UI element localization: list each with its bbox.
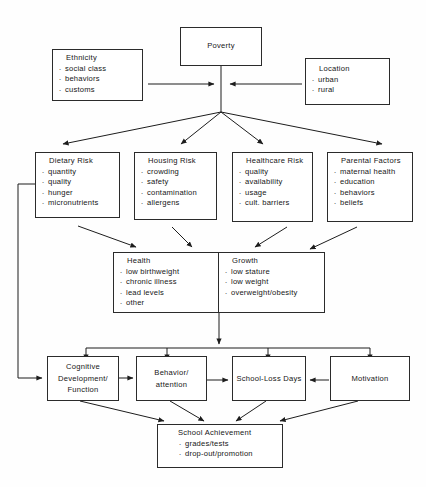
diagram-canvas: Poverty Ethnicity social class behaviors… [0,0,426,487]
list-item: quality [238,167,308,178]
list-item: other [119,298,214,309]
node-growth-items: low stature low weight overweight/obesit… [224,267,320,299]
node-health-growth[interactable]: Health low birthweight chronic illness l… [113,252,325,313]
list-item: beliefs [333,198,408,209]
list-item: overweight/obesity [224,288,320,299]
node-motivation[interactable]: Motivation [330,356,410,401]
node-school-achievement-title: School Achievement [178,428,278,439]
edge-hub-to-parental-factors [221,112,382,144]
node-health-items: low birthweight chronic illness lead lev… [119,267,214,309]
list-item: safety [140,177,212,188]
node-ethnicity-title: Ethnicity [58,53,138,64]
list-item: quality [41,177,115,188]
node-cognitive-development[interactable]: Cognitive Development/ Function [47,356,119,401]
node-parental-factors-items: maternal health education behaviors beli… [333,167,408,209]
list-item: education [333,177,408,188]
edge-hub-to-dietary-risk [63,112,221,144]
list-item: social class [58,64,138,75]
list-item: grades/tests [178,439,278,450]
list-item: availability [238,177,308,188]
list-item: urban [311,75,385,86]
edge-behavior-to-achievement [170,401,204,421]
node-health-title: Health [119,256,214,267]
list-item: maternal health [333,167,408,178]
node-school-achievement-items: grades/tests drop-out/promotion [178,439,278,460]
list-item: crowding [140,167,212,178]
list-item: lead levels [119,288,214,299]
list-item: customs [58,85,138,96]
node-parental-factors-title: Parental Factors [333,156,408,167]
node-healthcare-risk[interactable]: Healthcare Risk quality availability usa… [232,152,313,222]
node-growth[interactable]: Growth low stature low weight overweight… [219,253,324,312]
node-poverty-title: Poverty [207,41,235,52]
node-school-loss-days-title: School-Loss Days [234,373,303,385]
edge-parental-to-growth [310,227,357,249]
edge-motivation-to-achievement [280,401,358,421]
list-item: rural [311,85,385,96]
node-growth-title: Growth [224,256,320,267]
list-item: behaviors [58,74,138,85]
node-housing-risk[interactable]: Housing Risk crowding safety contaminati… [134,152,217,220]
node-dietary-risk[interactable]: Dietary Risk quantity quality hunger mic… [35,152,120,218]
list-item: micronutrients [41,198,115,209]
node-behavior-attention[interactable]: Behavior/ attention [136,356,207,401]
list-item: contamination [140,188,212,199]
edge-schoolloss-to-achievement [236,401,266,421]
edge-housing-to-health [172,227,192,247]
list-item: drop-out/promotion [178,449,278,460]
node-behavior-attention-title: Behavior/ attention [137,367,206,390]
node-location-title: Location [311,64,385,75]
edge-hub-to-healthcare-risk [221,112,263,144]
list-item: hunger [41,188,115,199]
list-item: chronic illness [119,277,214,288]
edge-healthcare-to-growth [255,227,287,247]
list-item: low weight [224,277,320,288]
list-item: behaviors [333,188,408,199]
edge-dietary-to-health [78,226,136,247]
list-item: usage [238,188,308,199]
node-dietary-risk-title: Dietary Risk [41,156,115,167]
node-location[interactable]: Location urban rural [305,58,390,105]
node-health[interactable]: Health low birthweight chronic illness l… [114,253,219,312]
list-item: allergens [140,198,212,209]
node-healthcare-risk-items: quality availability usage cult. barrier… [238,167,308,209]
node-school-achievement[interactable]: School Achievement grades/tests drop-out… [157,424,283,468]
edge-hub-to-housing-risk [181,112,221,144]
node-location-items: urban rural [311,75,385,96]
node-school-loss-days[interactable]: School-Loss Days [232,356,306,401]
node-cognitive-development-title: Cognitive Development/ Function [48,361,118,396]
list-item: quantity [41,167,115,178]
node-dietary-risk-items: quantity quality hunger micronutrients [41,167,115,209]
node-housing-risk-title: Housing Risk [140,156,212,167]
edge-cognitive-to-achievement [80,401,164,421]
node-ethnicity-items: social class behaviors customs [58,64,138,96]
node-poverty[interactable]: Poverty [180,27,262,66]
node-motivation-title: Motivation [349,373,390,385]
node-housing-risk-items: crowding safety contamination allergens [140,167,212,209]
node-parental-factors[interactable]: Parental Factors maternal health educati… [327,152,413,222]
list-item: low stature [224,267,320,278]
list-item: low birthweight [119,267,214,278]
node-healthcare-risk-title: Healthcare Risk [238,156,308,167]
node-ethnicity[interactable]: Ethnicity social class behaviors customs [52,49,143,101]
list-item: cult. barriers [238,198,308,209]
